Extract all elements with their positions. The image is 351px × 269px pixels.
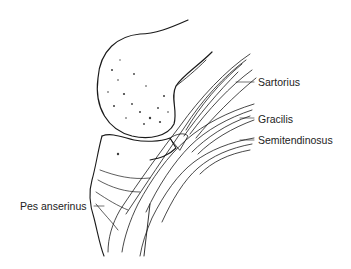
pes-anserinus-fan — [96, 170, 150, 230]
label-sartorius: Sartorius — [258, 76, 300, 88]
label-semitendinosus: Semitendinosus — [258, 134, 333, 146]
label-gracilis: Gracilis — [258, 113, 293, 125]
femur-outline — [97, 20, 212, 138]
anatomical-illustration: Sartorius Gracilis Semitendinosus Pes an… — [0, 0, 351, 269]
label-pes-anserinus: Pes anserinus — [20, 200, 87, 212]
semitendinosus-tendon — [140, 138, 254, 256]
